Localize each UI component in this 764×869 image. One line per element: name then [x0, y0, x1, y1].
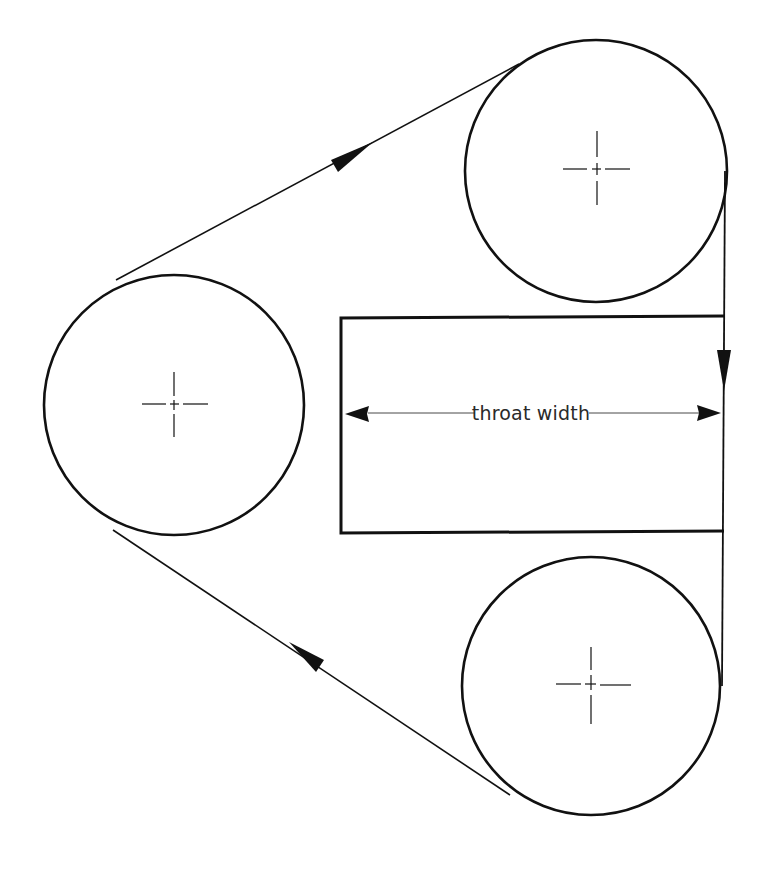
- blade-direction-arrow-icon: [717, 350, 731, 391]
- band-saw-diagram: throat width: [0, 0, 764, 869]
- belt-direction-arrow-icon: [331, 142, 373, 172]
- belt-direction-arrow-icon: [289, 642, 324, 672]
- center-mark-icon: [563, 131, 630, 205]
- throat-width-dimension: throat width: [345, 402, 721, 424]
- center-mark-icon: [556, 647, 631, 724]
- arrow-left-icon: [345, 406, 369, 422]
- belt-upper-run: [116, 64, 519, 280]
- frame-throat-outline: [341, 316, 724, 533]
- blade: [722, 171, 725, 686]
- arrow-right-icon: [697, 405, 721, 421]
- left-wheel: [44, 275, 304, 535]
- bottom-right-wheel: [462, 557, 720, 815]
- top-right-wheel: [465, 40, 727, 302]
- center-mark-icon: [142, 372, 208, 437]
- throat-width-label: throat width: [472, 402, 590, 424]
